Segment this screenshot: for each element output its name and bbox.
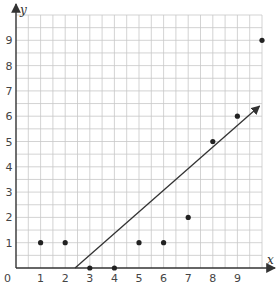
data-point (259, 38, 264, 43)
data-point (161, 240, 166, 245)
axes (16, 4, 275, 268)
x-tick-label: 3 (86, 272, 93, 285)
y-tick-label: 1 (6, 237, 13, 250)
data-point (63, 240, 68, 245)
x-tick-label: 7 (185, 272, 192, 285)
y-tick-label: 3 (6, 186, 13, 199)
y-tick-label: 7 (6, 85, 13, 98)
y-tick-label: 2 (6, 211, 13, 224)
data-point (210, 139, 215, 144)
grid (16, 15, 262, 268)
x-tick-label: 1 (37, 272, 44, 285)
tick-labels: 0123456789123456789 (4, 34, 241, 285)
x-tick-label: 0 (4, 272, 11, 285)
x-tick-label: 8 (209, 272, 216, 285)
data-point (186, 215, 191, 220)
x-tick-label: 5 (136, 272, 143, 285)
fit-line (75, 106, 260, 268)
data-point (87, 265, 92, 270)
x-tick-label: 2 (62, 272, 69, 285)
data-point (136, 240, 141, 245)
y-tick-label: 8 (6, 60, 13, 73)
x-tick-label: 6 (160, 272, 167, 285)
x-tick-label: 4 (111, 272, 118, 285)
x-tick-label: 9 (234, 272, 241, 285)
y-tick-label: 9 (6, 34, 13, 47)
scatter-chart: 0123456789123456789 x y (0, 0, 278, 285)
data-point (235, 114, 240, 119)
y-axis-label: y (19, 3, 27, 17)
data-point (112, 265, 117, 270)
y-tick-label: 6 (6, 110, 13, 123)
trend-line (75, 106, 260, 268)
y-tick-label: 5 (6, 136, 13, 149)
data-point (38, 240, 43, 245)
y-tick-label: 4 (6, 161, 13, 174)
x-axis-label: x (267, 253, 274, 267)
